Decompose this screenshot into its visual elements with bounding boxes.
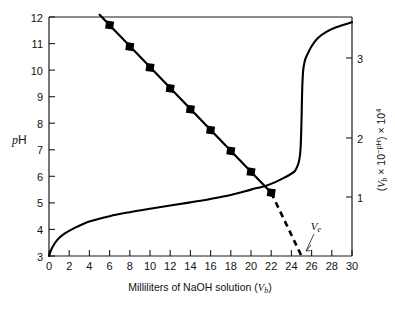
- svg-text:(Vb × 10−pH) × 104: (Vb × 10−pH) × 104: [374, 109, 390, 192]
- x-tick-label: 18: [225, 260, 237, 272]
- svg-text:Milliliters of NaOH solution (: Milliliters of NaOH solution (Vb): [128, 281, 271, 295]
- x-tick-label: 20: [245, 260, 257, 272]
- data-point-marker: [246, 167, 255, 176]
- y-axis-title-h: H: [18, 133, 27, 147]
- y-tick-label: 8: [37, 118, 43, 130]
- x-axis-title-prefix: Milliliters of NaOH solution (: [128, 281, 258, 293]
- y-left-axis-title: pH: [11, 133, 27, 147]
- x-tick-label: 16: [204, 260, 216, 272]
- x-tick-label: 12: [164, 260, 176, 272]
- y-right-ticks: [346, 58, 352, 197]
- x-axis-title: Milliliters of NaOH solution (Vb): [128, 281, 271, 295]
- y-right-title-exp1: −pH: [374, 140, 383, 154]
- data-point-marker: [125, 42, 134, 51]
- x-tick-label: 0: [46, 260, 52, 272]
- data-point-marker: [166, 84, 175, 93]
- data-point-marker: [105, 21, 114, 30]
- titration-curve: [49, 22, 352, 256]
- x-axis-title-suffix: ): [268, 281, 272, 293]
- x-tick-label: 28: [326, 260, 338, 272]
- ve-arrow: [306, 234, 314, 251]
- y-tick-label: 11: [32, 38, 43, 50]
- y-axis-title-p: p: [11, 133, 18, 147]
- gran-plot-extrapolation: [271, 193, 301, 256]
- svg-text:pH: pH: [11, 133, 27, 147]
- x-tick-label: 10: [144, 260, 156, 272]
- svg-text:Ve: Ve: [311, 220, 322, 234]
- y-right-title-times2: × 10: [375, 113, 387, 137]
- data-point-marker: [267, 188, 276, 197]
- y-tick-label: 3: [37, 251, 43, 263]
- y-right-axis-title: (Vb × 10−pH) × 104: [374, 109, 390, 192]
- data-point-marker: [145, 63, 154, 72]
- data-point-marker: [186, 105, 195, 114]
- y-tick-label: 6: [37, 171, 43, 183]
- y-right-tick-label: 1: [357, 192, 363, 204]
- y-right-tick-label: 3: [357, 53, 363, 65]
- equivalence-point-annotation: Ve: [306, 220, 322, 251]
- y-right-title-exp2: 4: [374, 109, 383, 113]
- y-tick-label: 5: [37, 197, 43, 209]
- y-tick-label: 12: [31, 12, 43, 24]
- x-tick-label: 24: [285, 260, 297, 272]
- gran-plot-markers: [105, 21, 276, 198]
- x-tick-label: 2: [66, 260, 72, 272]
- x-tick-labels: 0 2 4 6 8 10 12 14 16 18 20 22 24 26 28 …: [46, 260, 358, 272]
- y-right-tick-labels: 1 2 3: [357, 53, 363, 204]
- x-tick-label: 4: [86, 260, 92, 272]
- y-left-tick-labels: 3 4 5 6 7 8 9 10 11 12: [31, 12, 43, 263]
- x-tick-label: 8: [127, 260, 133, 272]
- x-tick-label: 6: [107, 260, 113, 272]
- y-right-title-times1: × 10: [375, 154, 387, 178]
- titration-gran-plot-figure: 3 4 5 6 7 8 9 10 11 12 pH: [0, 0, 395, 309]
- chart-svg: 3 4 5 6 7 8 9 10 11 12 pH: [0, 0, 395, 309]
- ve-label-sub: e: [318, 225, 322, 234]
- x-tick-label: 26: [305, 260, 317, 272]
- x-tick-label: 22: [265, 260, 277, 272]
- y-tick-label: 7: [37, 144, 43, 156]
- x-tick-label: 14: [184, 260, 196, 272]
- y-tick-label: 4: [37, 224, 43, 236]
- data-point-marker: [206, 126, 215, 135]
- y-right-tick-label: 2: [357, 133, 363, 145]
- x-tick-label: 30: [346, 260, 358, 272]
- y-tick-label: 10: [31, 65, 43, 77]
- data-point-marker: [226, 146, 235, 155]
- y-tick-label: 9: [37, 91, 43, 103]
- gran-plot-line: [100, 15, 272, 193]
- y-left-ticks: [49, 17, 55, 256]
